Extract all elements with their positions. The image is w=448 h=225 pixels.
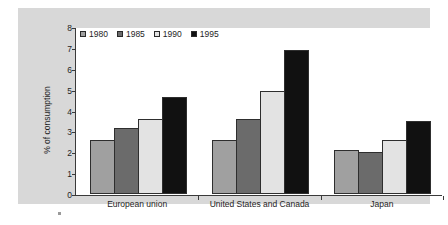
- chart-legend: 1980198519901995: [80, 30, 219, 39]
- bar: [358, 152, 383, 194]
- y-tick-label-6: 6: [60, 66, 72, 75]
- x-axis-category-label: European union: [76, 200, 198, 209]
- bar: [212, 140, 237, 194]
- legend-item-1985: 1985: [117, 30, 145, 39]
- bar: [406, 121, 431, 194]
- y-tick-mark-4: [72, 112, 76, 113]
- legend-swatch-icon: [80, 31, 86, 37]
- bar: [90, 140, 115, 194]
- y-tick-mark-5: [72, 91, 76, 92]
- bar: [260, 91, 285, 194]
- x-axis-separator: [443, 196, 444, 200]
- legend-label: 1985: [126, 30, 145, 39]
- y-tick-label-3: 3: [60, 128, 72, 137]
- bar: [114, 128, 139, 194]
- y-tick-label-4: 4: [60, 108, 72, 117]
- bar: [138, 119, 163, 194]
- bar: [382, 140, 407, 194]
- y-axis-title: % of consumption: [42, 0, 52, 70]
- plot-area: 012345678 European unionUnited States an…: [75, 28, 442, 196]
- chart-panel: % of consumption 012345678 European unio…: [18, 8, 430, 204]
- bars-layer: [77, 28, 442, 194]
- y-tick-mark-2: [72, 153, 76, 154]
- y-tick-label-0: 0: [60, 191, 72, 200]
- y-tick-mark-1: [72, 174, 76, 175]
- legend-label: 1980: [89, 30, 108, 39]
- bar: [162, 97, 187, 194]
- x-axis-category-label: Japan: [321, 200, 443, 209]
- bar: [334, 150, 359, 194]
- y-tick-label-2: 2: [60, 149, 72, 158]
- bar-group: [77, 28, 199, 194]
- bottom-mark: [58, 212, 61, 215]
- y-tick-label-7: 7: [60, 45, 72, 54]
- chart-figure: % of consumption 012345678 European unio…: [0, 0, 448, 225]
- y-tick-label-5: 5: [60, 87, 72, 96]
- y-tick-mark-7: [72, 49, 76, 50]
- y-tick-label-8: 8: [60, 24, 72, 33]
- y-tick-mark-0: [72, 195, 76, 196]
- legend-label: 1995: [200, 30, 219, 39]
- legend-swatch-icon: [154, 31, 160, 37]
- bar-group: [322, 28, 444, 194]
- bar: [284, 50, 309, 194]
- legend-swatch-icon: [191, 31, 197, 37]
- y-tick-label-1: 1: [60, 170, 72, 179]
- y-tick-mark-8: [72, 28, 76, 29]
- legend-item-1980: 1980: [80, 30, 108, 39]
- legend-item-1990: 1990: [154, 30, 182, 39]
- y-axis-title-label: % of consumption: [42, 70, 52, 170]
- bar-group: [199, 28, 321, 194]
- y-tick-mark-6: [72, 70, 76, 71]
- legend-item-1995: 1995: [191, 30, 219, 39]
- bar: [236, 119, 261, 194]
- legend-swatch-icon: [117, 31, 123, 37]
- x-axis-category-label: United States and Canada: [198, 200, 320, 209]
- y-tick-mark-3: [72, 132, 76, 133]
- legend-label: 1990: [163, 30, 182, 39]
